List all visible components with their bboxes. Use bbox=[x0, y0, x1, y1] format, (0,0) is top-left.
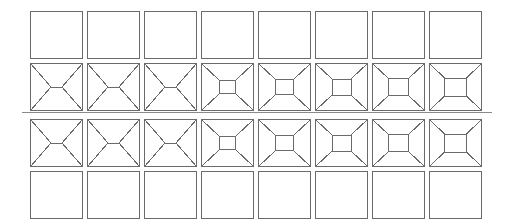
diagram-canvas bbox=[0, 0, 505, 222]
figure-root bbox=[0, 0, 505, 222]
